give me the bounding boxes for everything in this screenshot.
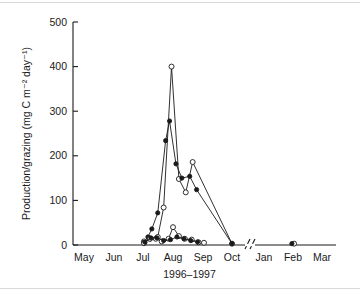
axis-break-gap bbox=[245, 244, 255, 246]
data-point-filled bbox=[149, 236, 153, 240]
data-point-filled bbox=[162, 238, 166, 242]
production-grazing-line-chart: 0100200300400500Production/grazing (mg C… bbox=[0, 0, 360, 292]
data-point-filled bbox=[188, 174, 192, 178]
y-tick-label: 100 bbox=[49, 194, 67, 206]
data-point-filled bbox=[164, 139, 168, 143]
x-tick-label-sep: Sep bbox=[194, 251, 213, 263]
data-point-open bbox=[183, 190, 188, 195]
data-point-open bbox=[171, 225, 176, 230]
x-tick-label-aug: Aug bbox=[164, 251, 183, 263]
x-tick-label-jan: Jan bbox=[256, 251, 273, 263]
data-point-filled bbox=[175, 235, 179, 239]
x-tick-label-mar: Mar bbox=[313, 251, 332, 263]
data-point-filled bbox=[189, 238, 193, 242]
data-point-open bbox=[201, 240, 206, 245]
data-point-filled bbox=[150, 227, 154, 231]
x-tick-label-may: May bbox=[74, 251, 95, 263]
x-tick-label-jun: Jun bbox=[106, 251, 123, 263]
y-tick-label: 200 bbox=[49, 149, 67, 161]
data-point-open bbox=[161, 205, 166, 210]
x-tick-label-feb: Feb bbox=[284, 251, 302, 263]
x-tick-label-jul: Jul bbox=[136, 251, 149, 263]
data-point-filled bbox=[155, 236, 159, 240]
data-point-filled bbox=[143, 240, 147, 244]
data-point-open bbox=[190, 160, 195, 165]
data-point-filled bbox=[195, 240, 199, 244]
series-line-production-open-circles bbox=[144, 67, 232, 244]
data-point-filled bbox=[195, 188, 199, 192]
data-point-filled bbox=[290, 242, 294, 246]
y-tick-label: 400 bbox=[49, 60, 67, 72]
x-tick-label-oct: Oct bbox=[224, 251, 240, 263]
y-tick-label: 300 bbox=[49, 105, 67, 117]
y-tick-label: 0 bbox=[61, 239, 67, 251]
data-point-open bbox=[169, 64, 174, 69]
y-axis-title: Production/grazing (mg C m⁻² day⁻¹) bbox=[20, 47, 32, 220]
data-point-filled bbox=[230, 242, 234, 246]
data-point-filled bbox=[174, 162, 178, 166]
data-point-filled bbox=[168, 238, 172, 242]
data-point-filled bbox=[167, 119, 171, 123]
data-point-filled bbox=[180, 176, 184, 180]
data-point-filled bbox=[182, 237, 186, 241]
x-axis-title: 1996–1997 bbox=[163, 268, 216, 280]
y-tick-label: 500 bbox=[49, 16, 67, 28]
plot-area: 0100200300400500Production/grazing (mg C… bbox=[20, 16, 336, 280]
data-point-filled bbox=[156, 211, 160, 215]
